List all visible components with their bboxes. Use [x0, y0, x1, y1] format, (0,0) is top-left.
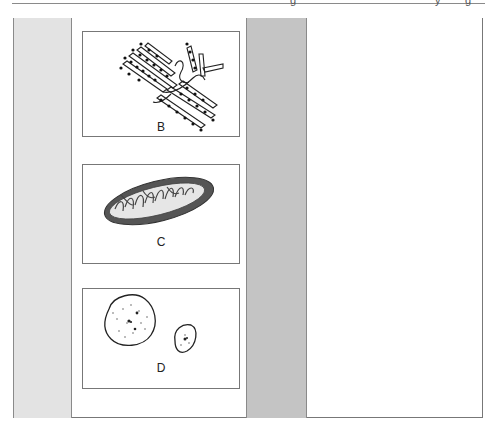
panel-label-c: C	[83, 235, 239, 249]
middle-shaded-column	[246, 18, 307, 418]
figure-panel-d: D	[82, 288, 240, 389]
figure-panel-c: C	[82, 164, 240, 264]
figure-panel-b: B	[82, 31, 240, 137]
panel-label-b: B	[83, 120, 239, 134]
header-text-fragment: g	[465, 0, 471, 6]
left-shaded-column	[13, 18, 72, 418]
panel-label-d: D	[83, 361, 239, 375]
header-text-fragment: y	[435, 0, 441, 6]
header-rule	[12, 3, 485, 4]
right-border	[482, 28, 483, 418]
mitochondrion-illustration	[83, 165, 241, 265]
header-text-fragment: g	[290, 0, 296, 6]
